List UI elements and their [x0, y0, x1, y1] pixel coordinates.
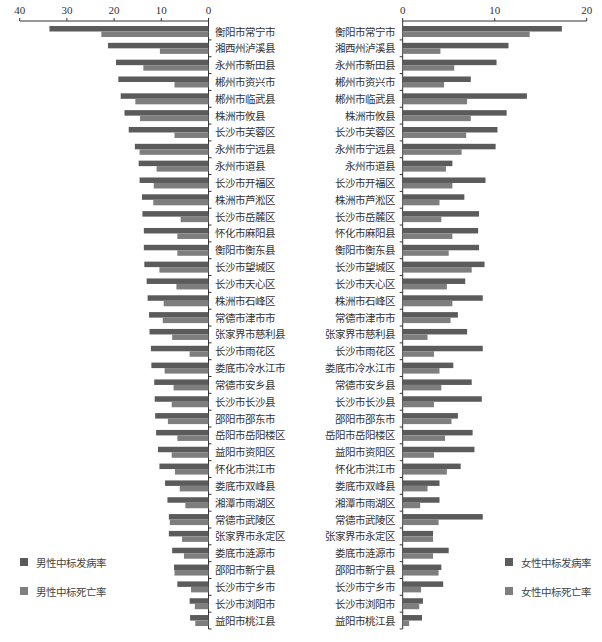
bar-incidence	[124, 110, 208, 116]
bar-incidence	[403, 110, 507, 116]
category-label: 长沙市雨花区	[215, 345, 275, 357]
category-label: 张家界市永定区	[325, 530, 395, 542]
category-label: 邵阳市邵东市	[335, 413, 395, 425]
bar-incidence	[403, 548, 449, 554]
bar-mortality	[185, 503, 208, 509]
bar-mortality	[403, 132, 466, 138]
category-label: 永州市新田县	[335, 59, 395, 71]
category-label: 永州市新田县	[215, 59, 275, 71]
category-label: 长沙市浏阳市	[335, 598, 395, 610]
bar-incidence	[403, 26, 562, 32]
bar-mortality	[403, 351, 434, 357]
category-label: 湘西州泸溪县	[215, 42, 275, 54]
category-label: 张家界市永定区	[215, 530, 285, 542]
bar-incidence	[49, 26, 208, 32]
bar-mortality	[153, 200, 208, 206]
x-tick-label: 20	[109, 4, 121, 16]
bar-mortality	[184, 553, 209, 559]
bar-mortality	[140, 149, 209, 155]
bar-mortality	[403, 419, 452, 425]
category-label: 株洲市攸县	[345, 110, 395, 122]
bar-mortality	[403, 65, 455, 71]
category-label: 娄底市冷水江市	[215, 362, 285, 374]
bar-incidence	[144, 245, 209, 251]
bar-mortality	[403, 570, 439, 576]
category-label: 长沙市开福区	[215, 177, 275, 189]
bar-incidence	[190, 615, 208, 621]
female-legend: 女性中标发病率 女性中标死亡率	[505, 555, 591, 613]
bar-mortality	[403, 183, 453, 189]
bar-incidence	[403, 60, 497, 66]
bar-mortality	[403, 99, 467, 105]
category-label: 常德市安乡县	[215, 379, 275, 391]
bar-mortality	[403, 200, 440, 206]
category-label: 湘西州泸溪县	[335, 42, 395, 54]
bar-incidence	[165, 480, 208, 486]
category-label: 株洲市攸县	[215, 110, 265, 122]
bar-mortality	[170, 520, 209, 526]
category-label: 株洲市石峰区	[215, 295, 275, 307]
bar-mortality	[403, 402, 434, 408]
category-label: 益阳市桃江县	[335, 615, 395, 627]
bar-incidence	[403, 127, 498, 133]
category-label: 湘潭市雨湖区	[215, 497, 275, 509]
bar-incidence	[169, 531, 209, 537]
bar-mortality	[403, 267, 472, 273]
bar-incidence	[155, 396, 209, 402]
bar-incidence	[150, 329, 209, 335]
legend-item-female-incidence: 女性中标发病率	[505, 555, 591, 569]
bar-mortality	[403, 318, 451, 324]
category-label: 益阳市资阳区	[335, 446, 395, 458]
bar-incidence	[108, 43, 209, 49]
category-label: 郴州市临武县	[335, 93, 395, 105]
chart-canvas: 403020100衡阳市常宁市湘西州泸溪县永州市新田县郴州市资兴市郴州市临武县株…	[0, 0, 602, 642]
bar-mortality	[403, 368, 440, 374]
bar-incidence	[403, 144, 496, 150]
bar-mortality	[403, 116, 471, 122]
bar-incidence	[116, 60, 209, 66]
category-label: 永州市宁远县	[335, 143, 395, 155]
bar-incidence	[149, 312, 208, 318]
bar-incidence	[403, 447, 475, 453]
bar-mortality	[403, 587, 421, 593]
legend-label: 女性中标死亡率	[521, 584, 591, 599]
bar-mortality	[163, 318, 209, 324]
bar-mortality	[140, 116, 208, 122]
bar-incidence	[121, 93, 209, 99]
bar-incidence	[403, 262, 485, 268]
bar-incidence	[155, 413, 208, 419]
bar-mortality	[190, 351, 209, 357]
bar-mortality	[143, 65, 208, 71]
bar-mortality	[177, 435, 208, 441]
category-label: 邵阳市新宁县	[215, 564, 275, 576]
bar-incidence	[142, 194, 209, 200]
bar-mortality	[195, 604, 209, 610]
bar-mortality	[160, 48, 209, 54]
category-label: 娄底市涟源市	[215, 547, 275, 559]
bar-mortality	[172, 334, 208, 340]
bar-mortality	[159, 267, 208, 273]
bar-incidence	[403, 598, 423, 604]
category-label: 郴州市临武县	[215, 93, 275, 105]
bar-mortality	[403, 469, 447, 475]
category-label: 长沙市天心区	[335, 278, 395, 290]
category-label: 长沙市浏阳市	[215, 598, 275, 610]
category-label: 怀化市洪江市	[215, 463, 275, 475]
male-legend: 男性中标发病率 男性中标死亡率	[20, 555, 106, 613]
bar-incidence	[159, 464, 208, 470]
category-label: 衡阳市常宁市	[215, 26, 275, 38]
bar-mortality	[180, 486, 209, 492]
category-label: 岳阳市岳阳楼区	[325, 429, 395, 441]
bar-incidence	[129, 127, 209, 133]
category-label: 衡阳市衡东县	[335, 244, 395, 256]
bar-incidence	[403, 329, 467, 335]
x-tick-label: 30	[61, 4, 73, 16]
legend-swatch	[505, 558, 513, 566]
legend-item-male-mortality: 男性中标死亡率	[20, 584, 106, 598]
category-label: 衡阳市衡东县	[215, 244, 275, 256]
category-label: 怀化市洪江市	[335, 463, 395, 475]
bar-mortality	[403, 536, 433, 542]
bar-mortality	[403, 284, 447, 290]
category-label: 株洲市芦淞区	[335, 194, 395, 206]
category-label: 长沙市宁乡市	[215, 581, 275, 593]
